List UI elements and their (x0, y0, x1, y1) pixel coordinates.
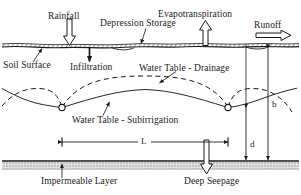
label-infiltration: Infiltration (70, 62, 112, 72)
label-dimension-L: L (141, 136, 147, 146)
label-dimension-d: d (250, 139, 255, 149)
water-table-subirrigation-curve (2, 88, 297, 107)
rainfall-arrow (64, 19, 76, 46)
drain-left (59, 104, 65, 110)
label-impermeable-layer: Impermeable Layer (41, 176, 117, 186)
label-dimension-b: b (272, 99, 277, 109)
label-deep-seepage: Deep Seepage (184, 176, 239, 186)
leader-lines (33, 29, 176, 179)
label-soil-surface: Soil Surface (3, 60, 51, 70)
soil-surface-band (2, 43, 299, 49)
label-depression-storage: Depression Storage (100, 18, 176, 28)
impermeable-layer-band (2, 161, 299, 169)
label-runoff: Runoff (254, 20, 281, 30)
label-evapotranspiration: Evapotranspiration (158, 9, 232, 19)
label-water-table-subirrigation: Water Table - Subirrigation (72, 115, 178, 125)
evapotranspiration-arrow (200, 21, 212, 46)
runoff-arrow (256, 30, 291, 40)
label-rainfall: Rainfall (48, 11, 79, 21)
drain-right (225, 104, 231, 110)
water-table-drainage-curve (2, 76, 292, 112)
label-water-table-drainage: Water Table - Drainage (139, 63, 230, 73)
diagram-canvas: Rainfall Depression Storage Evapotranspi… (0, 0, 301, 195)
